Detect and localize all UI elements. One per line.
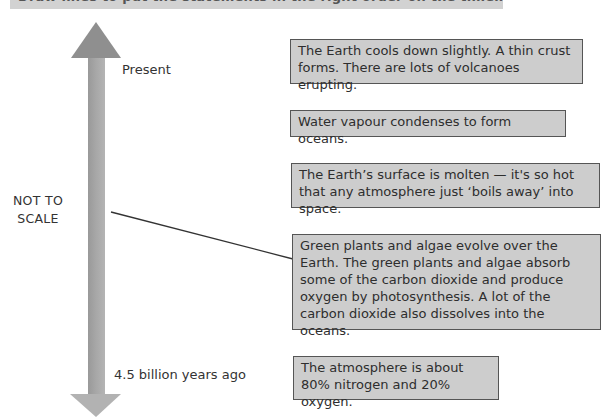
arrow-shaft: [88, 56, 105, 397]
arrow-down-head-icon: [70, 394, 121, 417]
statement-box-atmosphere[interactable]: The atmosphere is about 80% nitrogen and…: [293, 356, 499, 400]
not-to-scale-note: NOT TO SCALE: [0, 192, 76, 228]
scale-note-line2: SCALE: [0, 210, 76, 228]
connector-line[interactable]: [111, 212, 293, 259]
scale-note-line1: NOT TO: [0, 192, 76, 210]
statement-text: Green plants and algae evolve over the E…: [300, 238, 570, 338]
present-label: Present: [122, 62, 171, 77]
timeline-arrow: [70, 22, 121, 417]
statement-box-cooling[interactable]: The Earth cools down slightly. A thin cr…: [290, 39, 583, 84]
arrow-up-head-icon: [71, 22, 121, 58]
statement-box-oceans[interactable]: Water vapour condenses to form oceans.: [290, 110, 566, 137]
statement-box-plants[interactable]: Green plants and algae evolve over the E…: [292, 234, 601, 330]
past-label: 4.5 billion years ago: [114, 367, 246, 382]
statement-box-molten[interactable]: The Earth’s surface is molten — it's so …: [291, 163, 600, 208]
